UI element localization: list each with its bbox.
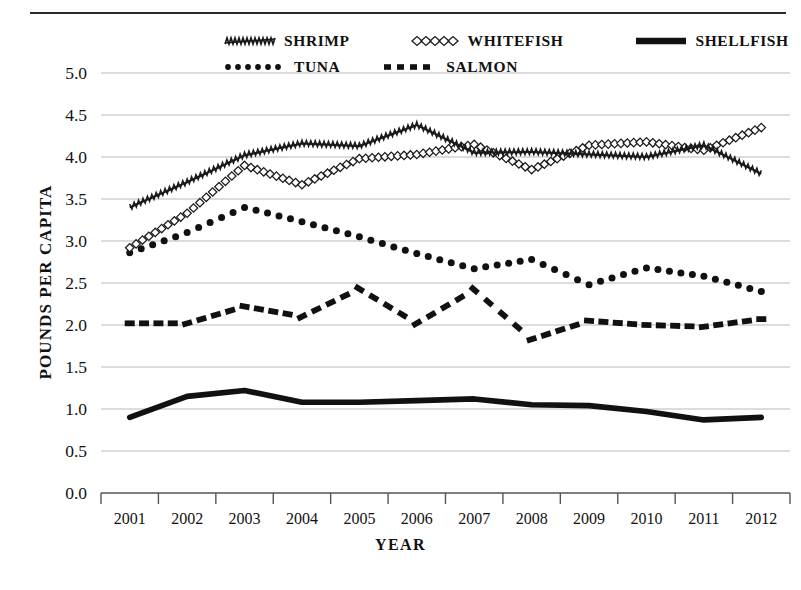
x-tick-label: 2004	[286, 510, 318, 527]
x-tick-label: 2001	[114, 510, 146, 527]
y-tick-labels: 0.00.51.01.52.02.53.03.54.04.55.0	[65, 63, 87, 503]
x-tick-label: 2005	[343, 510, 375, 527]
x-tick-label: 2003	[229, 510, 261, 527]
fish-consumption-chart: SHRIMP WHITEFISH SHE	[0, 0, 801, 590]
x-tick-label: 2002	[171, 510, 203, 527]
x-tick-label: 2012	[745, 510, 777, 527]
series-shrimp	[130, 122, 762, 209]
series-salmon	[125, 284, 767, 344]
x-tick-label: 2011	[688, 510, 719, 527]
data-series-layer	[125, 122, 767, 420]
y-tick-label: 0.5	[65, 441, 87, 461]
y-tick-label: 4.0	[65, 147, 87, 167]
x-axis	[101, 493, 790, 504]
gridlines	[101, 73, 790, 493]
y-tick-label: 3.0	[65, 231, 87, 251]
series-tuna	[126, 204, 765, 295]
x-tick-labels: 2001200220032004200520062007200820092010…	[114, 510, 778, 527]
y-tick-label: 5.0	[65, 63, 87, 83]
x-tick-label: 2007	[458, 510, 490, 527]
y-tick-label: 2.0	[65, 315, 87, 335]
y-tick-label: 0.0	[65, 483, 87, 503]
x-tick-label: 2010	[630, 510, 662, 527]
y-tick-label: 3.5	[65, 189, 87, 209]
y-tick-label: 1.0	[65, 399, 87, 419]
y-tick-label: 4.5	[65, 105, 87, 125]
y-tick-label: 1.5	[65, 357, 87, 377]
x-tick-label: 2009	[573, 510, 605, 527]
x-tick-label: 2008	[516, 510, 548, 527]
y-tick-label: 2.5	[65, 273, 87, 293]
x-tick-label: 2006	[401, 510, 433, 527]
series-shellfish	[130, 391, 762, 420]
plot-area: 0.00.51.01.52.02.53.03.54.04.55.0 200120…	[0, 0, 801, 590]
